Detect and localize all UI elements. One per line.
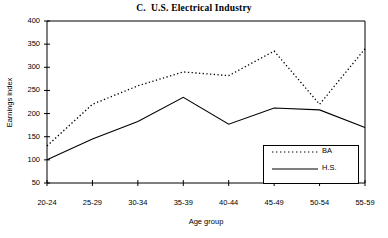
data-series-group <box>47 49 365 160</box>
legend-label-ba: BA <box>322 146 332 156</box>
chart-container: C. U.S. Electrical Industry Earnings ind… <box>0 0 388 238</box>
legend-item-hs: H.S. <box>264 163 358 180</box>
legend-swatch-dotted <box>272 146 318 156</box>
legend-swatch-solid <box>272 163 318 173</box>
legend: BA H.S. <box>263 145 359 184</box>
legend-label-hs: H.S. <box>322 163 337 173</box>
series-line-ba <box>47 49 365 146</box>
plot-area <box>0 0 388 238</box>
legend-item-ba: BA <box>264 146 358 163</box>
